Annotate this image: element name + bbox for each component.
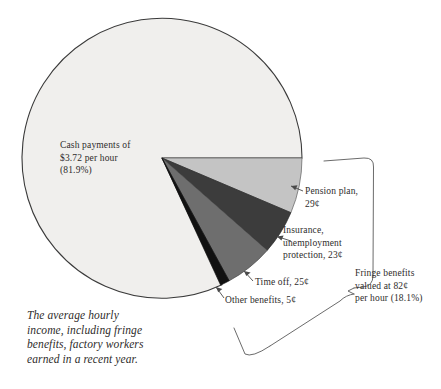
leader-other-benefits (216, 287, 224, 298)
slice-label-other-benefits: Other benefits, 5¢ (225, 294, 335, 307)
slice-label-time-off: Time off, 25¢ (255, 276, 355, 289)
slice-label-insurance-unemployment: Insurance, unemployment protection, 23¢ (283, 224, 388, 262)
slice-label-cash-payments: Cash payments of $3.72 per hour (81.9%) (60, 139, 180, 177)
leader-time-off (244, 271, 253, 281)
bracket-label-fringe-benefits: Fringe benefits valued at 82¢ per hour (… (355, 267, 441, 305)
pie-chart-figure: Cash payments of $3.72 per hour (81.9%) … (0, 0, 441, 389)
slice-label-pension-plan: Pension plan, 29¢ (305, 185, 400, 210)
figure-caption: The average hourly income, including fri… (27, 308, 207, 366)
